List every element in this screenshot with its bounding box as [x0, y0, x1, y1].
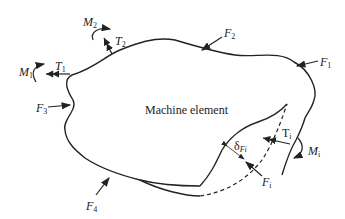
label-M2: M2 — [83, 16, 97, 30]
force-arrow-T2 — [104, 38, 112, 54]
label-dFi: δFi — [234, 140, 247, 154]
label-F1: F1 — [320, 56, 331, 70]
label-F4: F4 — [86, 200, 97, 214]
label-Mi: Mi — [308, 145, 320, 159]
moment-arrow-M2 — [92, 29, 110, 40]
force-arrow-Fi — [246, 162, 262, 176]
label-F2: F2 — [224, 27, 235, 41]
machine-element-diagram: Machine element F1 F2 F3 F4 M1 M2 T1 T2 … — [0, 0, 345, 219]
force-arrow-F2 — [202, 37, 222, 50]
label-Fi: Fi — [262, 176, 272, 190]
force-arrow-F4 — [96, 178, 109, 195]
force-arrow-F1 — [297, 61, 318, 66]
moment-arrow-M1 — [33, 64, 44, 82]
label-F3: F3 — [36, 102, 47, 116]
force-arrow-F3 — [48, 105, 70, 107]
machine-element-label: Machine element — [145, 104, 228, 116]
label-M1: M1 — [19, 66, 33, 80]
label-Ti: Ti — [282, 127, 292, 141]
label-T1: T1 — [55, 60, 66, 74]
label-T2: T2 — [115, 35, 126, 49]
